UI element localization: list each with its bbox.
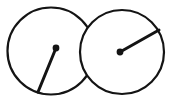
diagram-svg <box>0 0 173 104</box>
left-pivot-dot <box>53 45 60 52</box>
figure-canvas <box>0 0 173 104</box>
right-pivot-dot <box>117 49 124 56</box>
